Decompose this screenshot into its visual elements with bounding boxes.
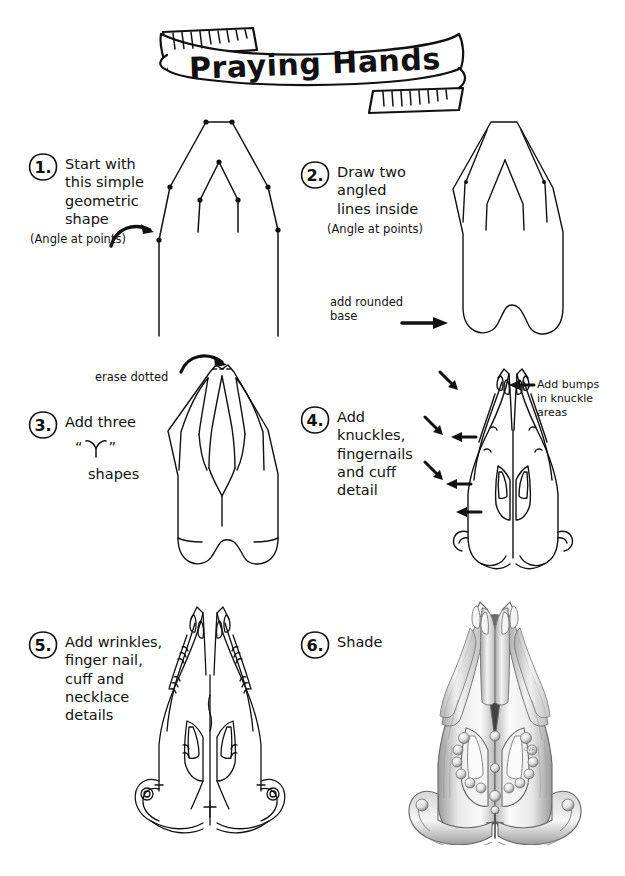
tutorial-page: Praying Hands 1. Start with this simple … — [0, 0, 625, 876]
step-3-y-shape-annotation: “” — [75, 437, 116, 459]
step-3-instruction-suffix: shapes — [88, 466, 139, 482]
step-4-number-badge: 4. — [300, 405, 330, 435]
step-4: 4. Add knuckles, fingernails and cuff de… — [300, 405, 430, 499]
step-5-number: 5. — [28, 630, 58, 660]
step-4-number: 4. — [300, 405, 330, 435]
step-4-figure — [440, 360, 590, 575]
step-5-number-badge: 5. — [28, 630, 58, 660]
step-1-instruction: Start with this simple geometric shape — [65, 152, 144, 228]
step-3-number: 3. — [28, 410, 58, 440]
step-1-number-badge: 1. — [28, 152, 58, 182]
quote-close: ” — [109, 439, 117, 455]
quote-open: “ — [75, 439, 83, 455]
step-2-number-badge: 2. — [300, 160, 330, 190]
step-6: 6. Shade — [300, 630, 410, 660]
step-4-instruction: Add knuckles, fingernails and cuff detai… — [337, 405, 430, 499]
step-1-figure — [148, 112, 296, 340]
step-3-instruction: Add three — [65, 410, 136, 431]
y-shape-icon — [83, 437, 109, 459]
step-2-rounded-base-note: add rounded base — [330, 295, 403, 324]
title-banner: Praying Hands — [145, 18, 485, 118]
step-2-number: 2. — [300, 160, 330, 190]
banner-ribbon-icon — [145, 18, 485, 118]
step-6-number: 6. — [300, 630, 330, 660]
step-3: 3. Add three — [28, 410, 158, 440]
step-6-instruction: Shade — [337, 630, 382, 651]
step-6-figure — [400, 590, 590, 845]
step-2-figure — [435, 112, 580, 340]
step-5-figure — [125, 595, 300, 845]
step-6-number-badge: 6. — [300, 630, 330, 660]
artist-signature: CVR — [524, 746, 535, 752]
step-3-number-badge: 3. — [28, 410, 58, 440]
step-2: 2. Draw two angled lines inside — [300, 160, 450, 218]
step-1: 1. Start with this simple geometric shap… — [28, 152, 168, 228]
step-2-angle-note: (Angle at points) — [327, 222, 423, 236]
step-3-figure — [150, 356, 300, 571]
step-2-instruction: Draw two angled lines inside — [337, 160, 450, 218]
step-1-number: 1. — [28, 152, 58, 182]
step-1-angle-points — [156, 119, 280, 242]
